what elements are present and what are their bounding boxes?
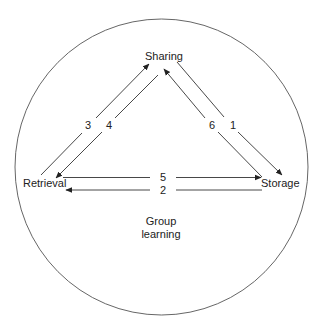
edge-label-6: 6 xyxy=(209,119,215,132)
edge-label-2: 2 xyxy=(160,184,166,197)
group-boundary-circle xyxy=(15,19,308,315)
node-storage: Storage xyxy=(261,177,300,190)
edge-label-3: 3 xyxy=(85,119,91,132)
group-learning-diagram: Sharing Retrieval Storage 3 4 6 1 5 2 Gr… xyxy=(0,0,315,327)
edge-label-1: 1 xyxy=(230,119,236,132)
node-sharing: Sharing xyxy=(145,50,183,63)
edge-3-arrow xyxy=(41,64,149,175)
edge-label-4: 4 xyxy=(106,119,112,132)
edge-label-5: 5 xyxy=(160,171,166,184)
group-learning-line1: Group xyxy=(141,215,180,228)
group-learning-label: Group learning xyxy=(141,215,180,241)
node-retrieval: Retrieval xyxy=(23,177,66,190)
group-learning-line2: learning xyxy=(141,228,180,241)
